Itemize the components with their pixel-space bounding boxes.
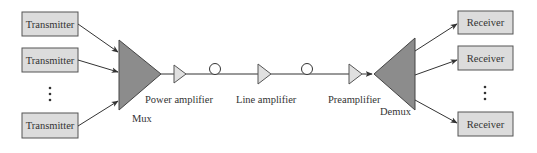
arrow-tx1-mux bbox=[78, 24, 118, 52]
line-amplifier: Line amplifier bbox=[236, 64, 297, 105]
receiver-3-label: Receiver bbox=[467, 119, 505, 130]
demux: Demux bbox=[374, 38, 415, 117]
receiver-1-label: Receiver bbox=[467, 17, 505, 28]
transmitter-ellipsis bbox=[49, 87, 52, 102]
line-amplifier-label: Line amplifier bbox=[236, 94, 297, 105]
receiver-3: Receiver bbox=[458, 112, 513, 136]
transmitter-3: Transmitter bbox=[22, 113, 78, 138]
transmitter-2: Transmitter bbox=[22, 48, 78, 72]
preamplifier: Preamplifier bbox=[328, 64, 381, 105]
transmitter-2-label: Transmitter bbox=[26, 55, 75, 66]
receiver-2: Receiver bbox=[458, 46, 513, 70]
transmitter-3-label: Transmitter bbox=[26, 120, 75, 131]
rx-arrows bbox=[415, 24, 457, 123]
receiver-ellipsis bbox=[484, 86, 487, 101]
receiver-2-label: Receiver bbox=[467, 53, 505, 64]
preamplifier-label: Preamplifier bbox=[328, 94, 381, 105]
arrow-demux-rx2 bbox=[415, 60, 457, 75]
arrow-demux-rx1 bbox=[415, 24, 457, 51]
mux-label: Mux bbox=[132, 113, 153, 124]
fiber-spool-icon bbox=[210, 64, 221, 75]
receiver-1: Receiver bbox=[458, 11, 513, 34]
arrow-tx2-mux bbox=[78, 60, 118, 72]
tx-arrows bbox=[78, 24, 118, 126]
power-amplifier-label: Power amplifier bbox=[145, 94, 213, 105]
fiber-spool-icon bbox=[302, 64, 313, 75]
arrow-tx3-mux bbox=[78, 101, 118, 126]
wdm-link-diagram: Transmitter Transmitter Transmitter Mux … bbox=[0, 0, 537, 153]
transmitter-1: Transmitter bbox=[22, 12, 78, 36]
transmitter-1-label: Transmitter bbox=[26, 19, 75, 30]
arrow-demux-rx3 bbox=[415, 100, 457, 123]
mux: Mux bbox=[119, 40, 161, 124]
demux-label: Demux bbox=[380, 106, 412, 117]
